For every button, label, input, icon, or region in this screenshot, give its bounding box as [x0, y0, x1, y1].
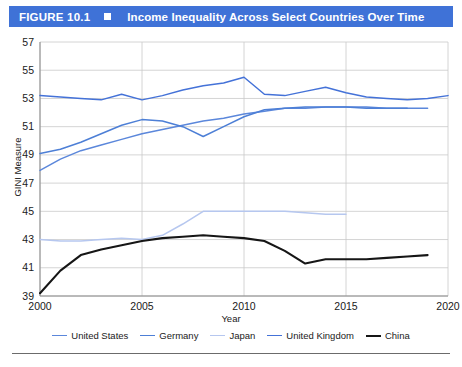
y-axis-title-label: GINI Measure — [12, 137, 23, 196]
chart-plot-area: 3941434547495153555720002005201020152020… — [0, 30, 462, 330]
figure-title-label: Income Inequality Across Select Countrie… — [127, 11, 424, 23]
series-line-china — [40, 235, 428, 293]
legend-label: Japan — [229, 330, 255, 341]
figure-number-label: FIGURE 10.1 — [19, 11, 90, 23]
y-tick-label: 43 — [22, 233, 34, 245]
series-line-united-states — [40, 107, 428, 171]
legend-label: China — [385, 330, 410, 341]
bottom-divider — [12, 353, 450, 354]
figure-header-bar: FIGURE 10.1 Income Inequality Across Sel… — [9, 6, 453, 27]
y-tick-label: 55 — [22, 64, 34, 76]
chart-legend: United StatesGermanyJapanUnited KingdomC… — [0, 330, 462, 341]
y-tick-label: 57 — [22, 36, 34, 48]
x-axis-title-label: Year — [221, 313, 240, 324]
x-axis-title: Year — [0, 308, 462, 326]
legend-item-united-kingdom[interactable]: United Kingdom — [267, 330, 354, 341]
legend-swatch-icon — [267, 335, 282, 336]
legend-label: United Kingdom — [286, 330, 354, 341]
y-tick-label: 41 — [22, 261, 34, 273]
y-tick-label: 53 — [22, 92, 34, 104]
legend-label: Germany — [159, 330, 198, 341]
legend-swatch-icon — [366, 335, 381, 337]
legend-swatch-icon — [140, 335, 155, 336]
legend-item-china[interactable]: China — [366, 330, 410, 341]
legend-item-germany[interactable]: Germany — [140, 330, 198, 341]
square-marker-icon — [104, 13, 111, 20]
legend-item-united-states[interactable]: United States — [52, 330, 128, 341]
legend-swatch-icon — [210, 335, 225, 336]
legend-item-japan[interactable]: Japan — [210, 330, 255, 341]
y-axis-title: GINI Measure — [7, 127, 25, 207]
legend-swatch-icon — [52, 335, 67, 336]
legend-label: United States — [71, 330, 128, 341]
line-chart-svg: 3941434547495153555720002005201020152020 — [0, 30, 462, 330]
